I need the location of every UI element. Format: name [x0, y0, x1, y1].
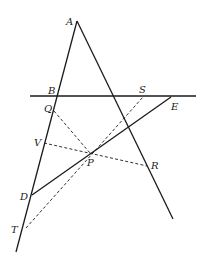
label-B: B — [47, 85, 55, 96]
label-E: E — [170, 101, 179, 112]
dashed-T-S — [26, 97, 143, 228]
label-T: T — [11, 224, 19, 235]
label-D: D — [19, 191, 28, 202]
label-V: V — [34, 137, 43, 148]
label-Q: Q — [44, 103, 52, 114]
geometry-diagram: A B S E Q V P R D T — [0, 0, 200, 256]
line-A-T — [16, 21, 77, 252]
label-A: A — [65, 16, 73, 27]
label-P: P — [86, 157, 94, 168]
label-S: S — [139, 84, 146, 95]
line-A-R — [77, 21, 173, 219]
dashed-V-R — [44, 143, 147, 166]
label-R: R — [150, 160, 159, 171]
